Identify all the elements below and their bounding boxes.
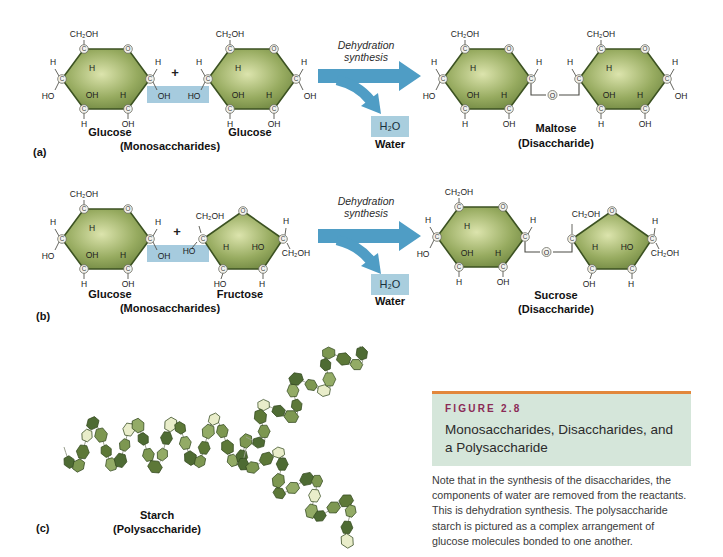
plus-sign-row-a: + <box>171 65 179 80</box>
atom-label: H <box>89 223 95 233</box>
atom-label: OH <box>603 90 616 100</box>
atom-label: C <box>221 265 226 272</box>
atom-label: OH <box>583 279 596 289</box>
atom-label: C <box>126 265 131 272</box>
atom-label: C <box>570 235 575 242</box>
atom-label: C <box>599 105 604 112</box>
glucose-bead <box>80 428 95 443</box>
atom-label: OH <box>86 250 99 260</box>
atom-label: OH <box>675 91 688 101</box>
atom-label: H <box>283 216 289 226</box>
glucose-bead <box>276 458 288 470</box>
atom-label: C <box>630 265 635 272</box>
bond-line <box>153 229 157 236</box>
atom-label: H <box>266 90 272 100</box>
atom-label: HO <box>621 242 634 252</box>
atom-label: OH <box>158 91 171 101</box>
glucose-molecule-a1: CH₂OHHOHHOHHHHOHOHCCOCCC <box>42 29 171 129</box>
bridge-o-letter: O <box>544 249 550 256</box>
atom-label: C <box>501 263 506 270</box>
bond-line <box>436 82 440 90</box>
atom-label: HO <box>183 246 196 256</box>
atom-label: H <box>628 279 634 289</box>
dehydration-arrow-row-a <box>318 61 421 114</box>
glucose-bead <box>215 424 229 439</box>
water-formula-row-b: H₂O <box>380 278 401 290</box>
atom-label: HO <box>252 242 265 252</box>
atom-label: O <box>610 207 615 214</box>
figure-caption-text: Note that in the synthesis of the disacc… <box>432 473 691 549</box>
glucose-bead <box>340 521 353 534</box>
glucose-ring <box>437 207 525 267</box>
atom-label: H <box>120 90 126 100</box>
atom-label: C <box>457 263 462 270</box>
atom-label: H <box>652 216 658 226</box>
disaccharide-label-a: (Disaccharide) <box>518 137 594 149</box>
glucose-bead <box>117 438 132 453</box>
glucose-bead <box>285 480 301 496</box>
starch-label: Starch <box>140 509 175 521</box>
figure-header: FIGURE 2.8 Monosaccharides, Disaccharide… <box>432 394 691 466</box>
glucose-ring <box>208 49 296 109</box>
atom-label: CH₂OH <box>451 29 479 39</box>
atom-label: CH₂OH <box>282 248 310 258</box>
maltose-left-glucose: CH₂OHHOHHOHHHHOHCCOCCC <box>423 29 542 129</box>
bond-line <box>199 226 201 233</box>
atom-label: C <box>228 45 233 52</box>
atom-label: H <box>456 277 462 287</box>
atom-label: H <box>637 90 643 100</box>
atom-label: O <box>507 45 512 52</box>
atom-label: H <box>530 215 536 225</box>
atom-label: H <box>89 63 95 73</box>
atom-label: H <box>592 242 598 252</box>
bond-line <box>201 69 205 76</box>
atom-label: H <box>598 119 604 129</box>
atom-label: C <box>148 75 153 82</box>
atom-label: C <box>507 105 512 112</box>
glucose-bead <box>252 436 265 449</box>
water-formula-row-a: H₂O <box>380 120 401 132</box>
atom-label: O <box>126 45 131 52</box>
atom-label: HO <box>423 91 436 101</box>
atom-label: CH₂OH <box>216 29 244 39</box>
atom-label: H <box>196 57 202 67</box>
bond-line <box>153 69 157 76</box>
dehydration-arrow-row-b <box>318 221 421 274</box>
polysaccharide-label: (Polysaccharide) <box>113 523 201 535</box>
panel-letter-c: (c) <box>36 522 50 534</box>
bond-line <box>55 242 59 250</box>
glucose-molecule-b: CH₂OHHOHHOHHHHOHOHCCOCCC <box>42 189 171 289</box>
glucose-bead <box>308 489 321 502</box>
bond-line <box>430 240 434 248</box>
atom-label: H <box>155 57 161 67</box>
atom-label: H <box>501 90 507 100</box>
atom-label: OH <box>232 90 245 100</box>
figure-number: FIGURE 2.8 <box>445 403 679 414</box>
atom-label: H <box>536 57 542 67</box>
atom-label: C <box>529 75 534 82</box>
glucose-bead <box>270 472 287 489</box>
glucose-bead <box>286 384 299 397</box>
glucose-bead <box>335 351 352 368</box>
atom-label: CH₂OH <box>70 189 98 199</box>
sucrose-fructose-unit: HCH₂OHOHHHHOCH₂OHOCCCC <box>568 207 679 289</box>
bond-line <box>299 82 303 90</box>
atom-label: H <box>425 215 431 225</box>
glucose-bead <box>290 398 304 412</box>
bond-line <box>436 69 440 76</box>
bridge-o-letter: O <box>550 92 556 99</box>
atom-label: OH <box>86 90 99 100</box>
glucose-bead <box>238 432 255 449</box>
atom-label: O <box>272 45 277 52</box>
glucose-bead <box>252 408 269 425</box>
panel-letter-b: (b) <box>36 310 50 322</box>
atom-label: C <box>457 203 462 210</box>
atom-label: H <box>81 119 87 129</box>
atom-label: CH₂OH <box>70 29 98 39</box>
figure-title: Monosaccharides, Disaccharides, and a Po… <box>445 421 679 456</box>
water-label-row-b: Water <box>375 295 406 307</box>
glucose-ring <box>443 49 531 109</box>
atom-label: H <box>235 63 241 73</box>
glucose-bead <box>200 423 217 440</box>
atom-label: O <box>126 205 131 212</box>
